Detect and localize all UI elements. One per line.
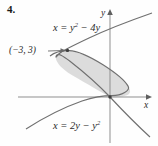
curve-label-upper-prefix: x = y: [53, 22, 75, 33]
y-axis-arrow-icon: [107, 9, 113, 15]
problem-number: 4.: [7, 4, 15, 15]
curve-label-upper-suffix: − 4y: [78, 22, 100, 33]
calculus-region-figure: 4. x = y2 − 4y x = 2y − y2 (−3, 3) y x: [0, 0, 158, 146]
shaded-region: [56, 51, 130, 97]
curve-label-lower-prefix: x = 2y − y: [53, 120, 97, 131]
y-axis-label: y: [101, 9, 105, 19]
curve-label-upper: x = y2 − 4y: [53, 23, 100, 34]
curve-label-lower: x = 2y − y2: [53, 121, 100, 132]
intersection-point-label: (−3, 3): [9, 46, 36, 56]
x-axis-label: x: [144, 101, 148, 111]
intersection-point-marker-origin: [108, 95, 111, 98]
x-axis-arrow-icon: [146, 94, 152, 100]
intersection-point-marker-upper: [66, 49, 69, 52]
curve-label-lower-exponent: 2: [97, 119, 100, 126]
